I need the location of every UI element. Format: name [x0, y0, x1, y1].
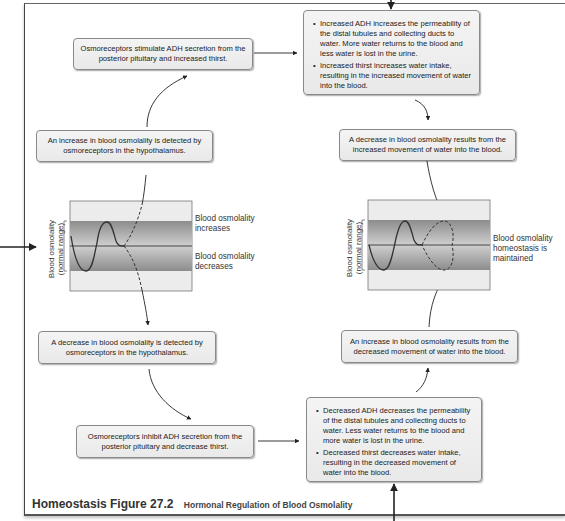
decreased-adh-box: Decreased ADH decreases the permeability…: [306, 397, 482, 482]
increased-thirst-bullet: Increased thirst increases water intake,…: [314, 61, 473, 91]
decrease-results-box: A decrease in blood osmolality results f…: [339, 129, 516, 161]
left-lower-label: Blood osmolality decreases: [195, 252, 265, 272]
stimulate-adh-box: Osmoreceptors stimulate ADH secretion fr…: [73, 38, 253, 70]
left-ylabel-line2: (normal range): [56, 211, 65, 287]
left-graph-ylabel: Blood osmolality (normal range): [47, 211, 65, 287]
increase-results-text: An increase in blood osmolality results …: [348, 337, 511, 357]
right-osmolality-graph: [362, 200, 490, 290]
increase-detected-box: An increase in blood osmolality is detec…: [36, 130, 213, 162]
right-ylabel-line2: (normal range): [354, 210, 363, 286]
decrease-results-text: A decrease in blood osmolality results f…: [346, 135, 509, 155]
increase-detected-text: An increase in blood osmolality is detec…: [43, 136, 206, 156]
increased-adh-box: Increased ADH increases the permeability…: [303, 10, 480, 95]
left-osmolality-graph: [64, 175, 192, 325]
increased-adh-list: Increased ADH increases the permeability…: [304, 19, 479, 91]
decrease-detected-box: A decrease in blood osmolality is detect…: [38, 331, 216, 364]
stimulate-adh-text: Osmoreceptors stimulate ADH secretion fr…: [80, 44, 246, 64]
left-upper-label: Blood osmolality increases: [195, 214, 265, 234]
increased-adh-bullet: Increased ADH increases the permeability…: [314, 19, 473, 59]
decreased-adh-list: Decreased ADH decreases the permeability…: [307, 406, 481, 478]
decreased-adh-bullet: Decreased ADH decreases the permeability…: [317, 406, 475, 446]
inhibit-adh-text: Osmoreceptors inhibit ADH secretion from…: [83, 432, 247, 452]
right-state-label: Blood osmolality homeostasis is maintain…: [493, 234, 555, 264]
inhibit-adh-box: Osmoreceptors inhibit ADH secretion from…: [76, 425, 254, 458]
figure-title: Hormonal Regulation of Blood Osmolality: [184, 500, 353, 510]
decrease-detected-text: A decrease in blood osmolality is detect…: [45, 338, 209, 358]
figure-label: Homeostasis Figure 27.2: [32, 497, 173, 511]
figure-caption: Homeostasis Figure 27.2 Hormonal Regulat…: [32, 494, 352, 512]
left-ylabel-line1: Blood osmolality: [47, 211, 56, 287]
right-ylabel-line1: Blood osmolality: [345, 210, 354, 286]
right-graph-ylabel: Blood osmolality (normal range): [345, 210, 363, 286]
decreased-thirst-bullet: Decreased thirst decreases water intake,…: [317, 448, 475, 478]
increase-results-box: An increase in blood osmolality results …: [341, 330, 518, 363]
